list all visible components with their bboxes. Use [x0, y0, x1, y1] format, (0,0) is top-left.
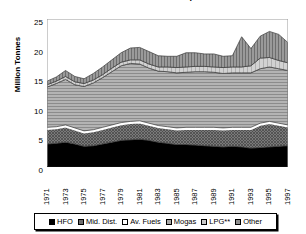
- chart-title: Oil Products Consumption: [0, 0, 306, 1]
- legend-item[interactable]: HFO: [49, 218, 73, 226]
- legend-swatch-icon: [122, 219, 128, 225]
- x-tick-label: 1981: [136, 188, 144, 205]
- legend-label: Other: [243, 218, 262, 226]
- chart-figure: Oil Products Consumption Million Tonnes …: [0, 0, 306, 234]
- legend-item[interactable]: Av. Fuels: [122, 218, 161, 226]
- y-axis-label: Million Tonnes: [13, 20, 22, 110]
- legend-label: Mogas: [174, 218, 197, 226]
- legend-label: LPG**: [209, 218, 230, 226]
- legend-item[interactable]: LPG**: [201, 218, 230, 226]
- legend-swatch-icon: [78, 219, 84, 225]
- y-tick-label: 0: [27, 167, 43, 175]
- x-tick-label: 1995: [265, 188, 273, 205]
- x-tick-label: 1997: [284, 188, 292, 205]
- legend-item[interactable]: Mid. Dist.: [78, 218, 117, 226]
- y-tick-label: 10: [27, 108, 43, 116]
- stacked-area-svg: [47, 19, 288, 167]
- legend-label: Av. Fuels: [130, 218, 161, 226]
- x-tick-label: 1993: [247, 188, 255, 205]
- x-tick-label: 1977: [99, 188, 107, 205]
- legend-item[interactable]: Mogas: [166, 218, 197, 226]
- x-tick-label: 1989: [210, 188, 218, 205]
- x-tick-label: 1985: [173, 188, 181, 205]
- chart-legend: HFOMid. Dist.Av. FuelsMogasLPG**Other: [34, 213, 277, 230]
- plot-area: [47, 19, 288, 167]
- x-tick-label: 1971: [43, 188, 51, 205]
- y-tick-label: 25: [27, 19, 43, 27]
- legend-swatch-icon: [166, 219, 172, 225]
- y-tick-label: 5: [27, 137, 43, 145]
- x-tick-label: 1973: [62, 188, 70, 205]
- legend-label: Mid. Dist.: [86, 218, 117, 226]
- legend-item[interactable]: Other: [235, 218, 262, 226]
- legend-label: HFO: [57, 218, 73, 226]
- legend-swatch-icon: [235, 219, 241, 225]
- x-tick-label: 1991: [228, 188, 236, 205]
- x-axis-ticks: 1971197319751977197919811983198519871989…: [47, 169, 288, 205]
- legend-swatch-icon: [201, 219, 207, 225]
- y-tick-label: 20: [27, 49, 43, 57]
- y-tick-label: 15: [27, 78, 43, 86]
- x-tick-label: 1987: [191, 188, 199, 205]
- x-tick-label: 1983: [154, 188, 162, 205]
- legend-swatch-icon: [49, 219, 55, 225]
- y-axis-ticks: 0510152025: [25, 15, 43, 171]
- x-tick-label: 1979: [117, 188, 125, 205]
- x-tick-label: 1975: [80, 188, 88, 205]
